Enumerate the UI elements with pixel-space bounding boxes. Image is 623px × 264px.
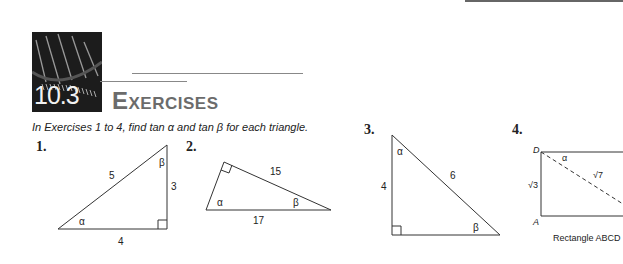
exercise-2-alpha-label: α bbox=[217, 197, 223, 208]
exercise-3-beta-label: β bbox=[473, 222, 479, 233]
exercise-3-alpha-label: α bbox=[397, 146, 403, 157]
exercise-1-hypotenuse-label: 5 bbox=[109, 170, 115, 181]
exercise-2-hypotenuse-label: 17 bbox=[253, 215, 264, 226]
exercise-4-alpha-label: α bbox=[562, 153, 567, 163]
exercise-3-vertical-label: 4 bbox=[381, 181, 387, 192]
exercise-2-number: 2. bbox=[186, 139, 197, 155]
exercise-3-triangle bbox=[392, 135, 500, 235]
exercise-1-base-label: 4 bbox=[118, 236, 124, 247]
exercise-4-vertex-d: D bbox=[533, 145, 540, 155]
exercise-4-vertex-a: A bbox=[533, 217, 539, 227]
exercise-2-triangle bbox=[206, 162, 331, 210]
exercise-figures bbox=[0, 0, 623, 264]
exercise-2-leg-label: 15 bbox=[270, 166, 281, 177]
exercise-1-alpha-label: α bbox=[79, 216, 85, 227]
exercise-3-hypotenuse-label: 6 bbox=[450, 170, 456, 181]
exercise-4-caption: Rectangle ABCD bbox=[553, 233, 621, 243]
exercise-2-beta-label: β bbox=[293, 197, 299, 208]
exercise-4-rectangle bbox=[541, 152, 623, 216]
exercise-1-vertical-label: 3 bbox=[171, 181, 177, 192]
exercise-1-beta-label: β bbox=[159, 157, 165, 168]
exercise-4-diagonal-label: √7 bbox=[593, 170, 603, 180]
exercise-4-number: 4. bbox=[512, 122, 523, 138]
exercise-4-side-label: √3 bbox=[528, 180, 538, 190]
exercise-1-triangle bbox=[58, 145, 167, 229]
exercise-3-number: 3. bbox=[364, 122, 375, 138]
